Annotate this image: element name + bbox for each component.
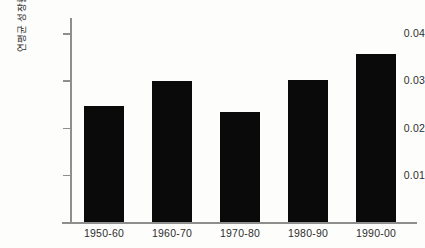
y-axis-tick-mark <box>63 175 70 177</box>
y-axis-tick-mark <box>63 128 70 130</box>
bars-layer <box>70 18 410 222</box>
x-axis-tick-label: 1990-00 <box>342 227 410 239</box>
x-axis-tick-label: 1960-70 <box>138 227 206 239</box>
x-axis-tick-label: 1980-90 <box>274 227 342 239</box>
bar-chart-figure: 연평균 성장률 0.010.020.030.04 1950-601960-701… <box>0 0 425 248</box>
x-axis-label-group: 1950-601960-701970-801980-901990-00 <box>70 227 410 247</box>
bar <box>356 54 396 222</box>
bar <box>84 106 124 222</box>
bar <box>152 81 192 222</box>
x-axis-tick-label: 1970-80 <box>206 227 274 239</box>
x-axis-line <box>62 222 417 224</box>
y-axis-tick-mark <box>63 80 70 82</box>
x-axis-tick-label: 1950-60 <box>70 227 138 239</box>
y-axis-tick-mark <box>63 33 70 35</box>
bar <box>288 80 328 222</box>
plot-area <box>70 18 410 222</box>
bar <box>220 112 260 223</box>
